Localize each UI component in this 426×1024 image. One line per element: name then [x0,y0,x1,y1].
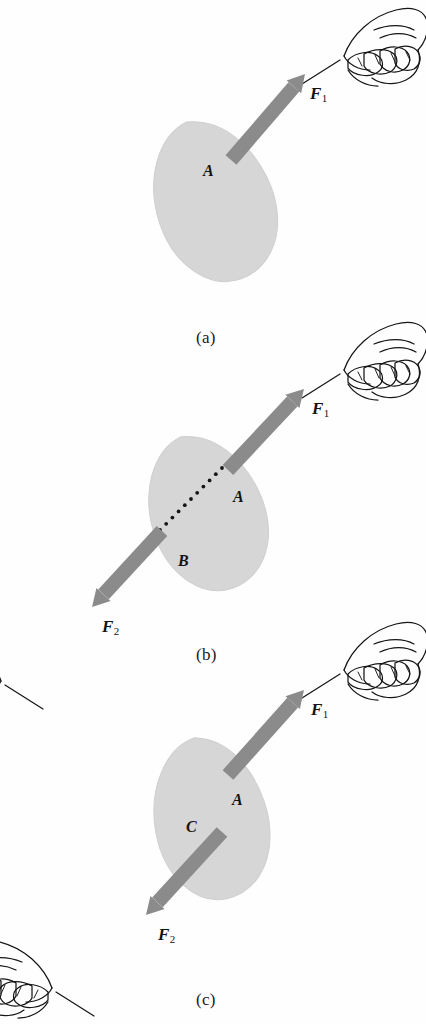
hand-drawing-hand-upper-right-stroke [302,374,340,398]
force-subscript: 2 [114,625,120,637]
dotted-action-line-dot [164,522,168,526]
point-label-a-A: A [203,162,214,180]
hand-drawing-hand-upper-right-stroke [374,640,414,645]
force-symbol: F [311,700,322,719]
hand-drawing-hand-upper-right-stroke [380,34,416,39]
force-arrow-b-F2 [92,526,167,607]
hand-drawing-hand-lower-left-stroke [56,992,94,1016]
force-arrow-a-F1 [226,74,305,165]
figure-artwork [0,0,426,1024]
dotted-action-line-dot [183,503,187,507]
point-label-b-A: A [233,488,244,506]
hand-drawing-hand-upper-right-stroke [418,632,426,664]
dotted-action-line-dot [208,479,212,483]
panel-caption-b: (b) [196,645,217,665]
point-label-b-B: B [178,552,189,570]
hand-drawing-hand-upper-right-stroke [348,53,383,76]
force-arrow-a-F1-shaft [226,82,300,165]
hand-drawing-hand-upper-right-stroke [348,367,383,390]
dotted-action-line-dot [171,516,175,520]
hand-drawing-hand-upper-right-stroke [380,648,416,653]
force-label-c-F1: F1 [311,700,328,720]
force-symbol: F [158,925,169,944]
hand-drawing-hand-upper-right-stroke [374,26,414,31]
hand-drawing-hand-upper-right [302,622,426,700]
dotted-action-line-dot [214,472,218,476]
force-symbol: F [310,84,321,103]
force-subscript: 2 [170,933,176,945]
hand-drawing-hand-upper-right-detail [358,372,362,380]
force-label-c-F2: F2 [158,925,175,945]
dotted-action-line-dot [189,497,193,501]
force-symbol: F [312,399,323,418]
dotted-action-line-dot [202,485,206,489]
hand-drawing-hand-upper-right [302,322,426,400]
force-arrow-c-F1-shaft [223,698,298,780]
hand-drawing-hand-upper-right-stroke [302,60,340,84]
dotted-action-line-dot [220,466,224,470]
force-label-b-F2: F2 [102,617,119,637]
hand-drawing-hand-lower-left-stroke [0,966,16,971]
panel-c-art [0,622,426,1018]
hand-drawing-hand-lower-left-stroke [5,685,43,709]
hand-drawing-hand-lower-left-stroke [0,940,52,988]
hand-drawing-hand-upper-right-detail [358,672,362,680]
body-blob [138,726,283,910]
hand-drawing-hand-lower-left-stroke [0,958,22,963]
hand-drawing-hand-upper-right-stroke [380,348,416,353]
force-label-b-F1: F1 [312,399,329,419]
force-subscript: 1 [323,708,329,720]
dotted-action-line-dot [177,510,181,514]
hand-drawing-hand-lower-left [0,633,43,711]
dotted-action-line-dot [195,491,199,495]
panel-caption-c: (c) [196,990,216,1010]
hand-drawing-hand-upper-right-stroke [418,332,426,364]
hand-drawing-hand-lower-left-stroke [0,681,1,695]
hand-drawing-hand-lower-left-detail [34,990,38,998]
panel-caption-a: (a) [196,328,216,348]
point-label-c-C: C [186,818,197,836]
hand-drawing-hand-lower-left-stroke [0,633,1,681]
hand-drawing-hand-upper-right-stroke [418,18,426,50]
hand-drawing-hand-upper-right-detail [358,58,362,66]
force-arrow-b-F1-shaft [223,396,298,474]
force-arrow-b-F2-shaft [98,526,167,599]
body-blob [126,418,287,607]
body-blob [130,102,297,298]
hand-drawing-hand-upper-right-stroke [348,667,383,690]
point-label-c-A: A [232,791,243,809]
force-arrow-b-F1 [223,389,304,475]
hand-drawing-hand-upper-right [302,8,426,86]
hand-drawing-hand-upper-right-stroke [374,340,414,345]
force-label-a-F1: F1 [310,84,327,104]
force-arrow-c-F1 [223,690,304,780]
hand-drawing-hand-lower-left [0,940,94,1018]
force-symbol: F [102,617,113,636]
hand-drawing-hand-upper-right-stroke [302,674,340,698]
force-subscript: 1 [324,407,330,419]
physics-force-figure: A F1 (a) A B F1 F2 (b) A C F1 F2 (c) [0,0,426,1024]
hand-drawing-hand-lower-left-stroke [14,985,49,1008]
force-subscript: 1 [322,92,328,104]
panel-a-art [130,8,426,298]
